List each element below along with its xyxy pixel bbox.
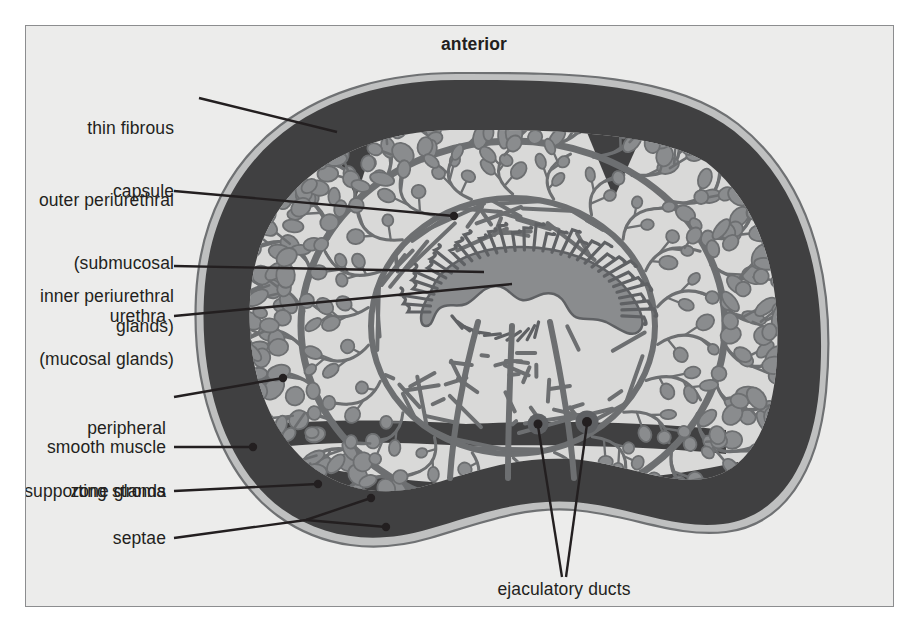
anchor-dot bbox=[314, 480, 322, 488]
stromal-strut bbox=[377, 284, 379, 350]
stromal-strut bbox=[501, 201, 545, 203]
gland-acinus bbox=[380, 416, 392, 429]
anchor-dot bbox=[450, 212, 458, 220]
anchor-dot bbox=[367, 494, 375, 502]
prostate-body bbox=[196, 49, 829, 596]
anchor-dot bbox=[382, 523, 390, 531]
gland-acinus bbox=[355, 381, 369, 395]
gland-acinus bbox=[344, 435, 357, 449]
gland-acinus bbox=[660, 410, 676, 420]
gland-acinus bbox=[428, 467, 440, 482]
gland-acinus bbox=[388, 439, 401, 456]
gland-acinus bbox=[305, 427, 319, 438]
stromal-strut bbox=[523, 208, 576, 211]
gland-acinus bbox=[307, 405, 322, 420]
gland-acinus bbox=[360, 155, 376, 173]
stromal-strut bbox=[548, 380, 549, 402]
gland-duct-stalk bbox=[604, 439, 605, 457]
gland-acinus bbox=[382, 214, 394, 227]
gland-acinus bbox=[411, 184, 426, 198]
anchor-dot bbox=[279, 374, 287, 382]
anchor-dot bbox=[249, 443, 257, 451]
prostate-cross-section-diagram bbox=[26, 26, 894, 607]
gland-acinus bbox=[659, 255, 679, 270]
gland-acinus bbox=[322, 395, 336, 410]
gland-acinus bbox=[347, 229, 365, 245]
gland-acinus bbox=[260, 318, 279, 333]
gland-acinus bbox=[681, 245, 694, 256]
figure-frame: anterior thin fibrous capsule outer peri… bbox=[25, 25, 894, 607]
stromal-strut bbox=[513, 421, 517, 424]
figure-root: anterior thin fibrous capsule outer peri… bbox=[0, 0, 920, 634]
stromal-strut bbox=[482, 355, 489, 356]
